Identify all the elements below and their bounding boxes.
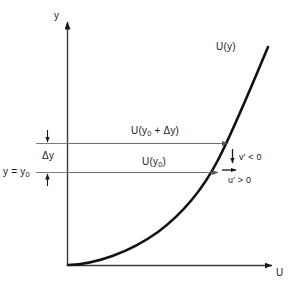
y-equals-y0-label: y = y0 bbox=[3, 167, 30, 179]
lower-velocity-label-tail: ) bbox=[163, 156, 167, 167]
v-prime-label: v′ < 0 bbox=[239, 153, 262, 162]
velocity-profile-curve bbox=[68, 47, 268, 265]
figure-drawing bbox=[0, 0, 294, 291]
y-equals-y0-label-base: y = y bbox=[3, 166, 25, 177]
velocity-profile-figure: y U U(y) U(y0 + Δy) U(y0) Δy y = y0 v′ <… bbox=[0, 0, 294, 291]
u-prime-label: u′ > 0 bbox=[228, 176, 251, 185]
curve-label: U(y) bbox=[216, 42, 236, 52]
upper-velocity-label-base: U(y bbox=[131, 125, 147, 136]
delta-y-label: Δy bbox=[42, 151, 54, 161]
upper-velocity-label: U(y0 + Δy) bbox=[131, 126, 179, 138]
x-axis-label: U bbox=[276, 268, 283, 278]
upper-velocity-label-tail: + Δy) bbox=[152, 125, 180, 136]
y-equals-y0-label-subscript: 0 bbox=[25, 170, 29, 179]
lower-velocity-label: U(y0) bbox=[142, 157, 166, 169]
y-axis-label: y bbox=[54, 11, 59, 21]
lower-velocity-label-base: U(y bbox=[142, 156, 158, 167]
